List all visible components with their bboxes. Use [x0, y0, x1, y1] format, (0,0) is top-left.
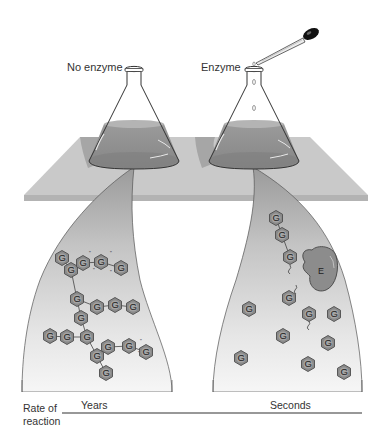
glucose-monomer-icon: G [123, 339, 136, 354]
glucose-monomer-icon: G [100, 366, 113, 381]
flask-no-enzyme [89, 66, 179, 169]
svg-text:G: G [94, 301, 101, 312]
svg-text:G: G [305, 358, 312, 369]
svg-text:": " [110, 250, 112, 256]
glucose-monomer-icon: G [338, 365, 351, 380]
svg-text:": " [140, 338, 142, 344]
pipette-icon [256, 26, 321, 65]
svg-text:": " [93, 267, 95, 273]
glucose-monomer-icon: G [95, 255, 108, 270]
svg-text:G: G [105, 341, 112, 352]
glucose-monomer-icon: G [81, 330, 94, 345]
enzyme-label: E [318, 266, 324, 276]
svg-text:G: G [143, 346, 150, 357]
glucose-monomer-icon: G [127, 300, 140, 315]
svg-text:G: G [279, 229, 286, 240]
diagram-canvas: " " " " " " GGGGGGGGGGGGGGGGGG E GGGGGGG… [0, 0, 383, 434]
svg-text:G: G [78, 312, 85, 323]
glucose-monomer-icon: G [56, 251, 69, 266]
flask-right-label: Enzyme [201, 62, 241, 73]
flask-enzyme [209, 62, 299, 169]
svg-text:G: G [118, 262, 125, 273]
glucose-monomer-icon: G [303, 307, 316, 322]
svg-text:G: G [59, 252, 66, 263]
svg-text:G: G [126, 340, 133, 351]
glucose-monomer-icon: G [44, 329, 57, 344]
rate-left-label: Years [81, 400, 107, 411]
glucose-monomer-icon: G [328, 307, 341, 322]
glucose-monomer-icon: G [91, 300, 104, 315]
svg-text:G: G [130, 301, 137, 312]
glucose-monomer-icon: G [75, 311, 88, 326]
svg-text:G: G [74, 293, 81, 304]
svg-text:G: G [103, 367, 110, 378]
svg-text:G: G [341, 366, 348, 377]
svg-text:G: G [246, 303, 253, 314]
svg-text:G: G [286, 292, 293, 303]
svg-text:G: G [331, 308, 338, 319]
svg-text:G: G [306, 308, 313, 319]
svg-text:G: G [47, 330, 54, 341]
svg-text:G: G [112, 299, 119, 310]
glucose-monomer-icon: G [115, 261, 128, 276]
glucose-monomer-icon: G [77, 256, 90, 271]
table-surface [24, 137, 368, 201]
svg-text:": " [110, 269, 112, 275]
svg-text:G: G [68, 264, 75, 275]
glucose-monomer-icon: G [270, 211, 283, 226]
glucose-monomer-icon: G [109, 298, 122, 313]
svg-text:G: G [287, 251, 294, 262]
glucose-monomer-icon: G [243, 302, 256, 317]
svg-text:G: G [280, 330, 287, 341]
drop-icon [253, 105, 256, 110]
svg-text:G: G [80, 257, 87, 268]
glucose-monomer-icon: G [284, 250, 297, 265]
drop-icon [253, 79, 256, 84]
glucose-monomer-icon: G [283, 291, 296, 306]
svg-text:G: G [94, 350, 101, 361]
axis-label-line1: Rate of [23, 403, 57, 414]
svg-text:": " [89, 250, 91, 256]
enzyme-diagram: " " " " " " GGGGGGGGGGGGGGGGGG E GGGGGGG… [0, 0, 383, 434]
glucose-monomer-icon: G [102, 340, 115, 355]
glucose-monomer-icon: G [302, 357, 315, 372]
glucose-monomer-icon: G [140, 345, 153, 360]
glucose-monomer-icon: G [71, 292, 84, 307]
glucose-monomer-icon: G [277, 329, 290, 344]
flask-left-label: No enzyme [67, 62, 123, 73]
glucose-monomer-icon: G [276, 228, 289, 243]
svg-text:G: G [64, 331, 71, 342]
glucose-monomer-icon: G [235, 351, 248, 366]
svg-text:G: G [325, 337, 332, 348]
svg-text:G: G [273, 212, 280, 223]
axis-label-line2: reaction [23, 416, 60, 427]
svg-text:G: G [238, 352, 245, 363]
svg-text:G: G [84, 331, 91, 342]
glucose-monomer-icon: G [322, 336, 335, 351]
rate-right-label: Seconds [270, 400, 311, 411]
glucose-monomer-icon: G [61, 330, 74, 345]
svg-text:G: G [98, 256, 105, 267]
glucose-monomer-icon: G [65, 263, 78, 278]
